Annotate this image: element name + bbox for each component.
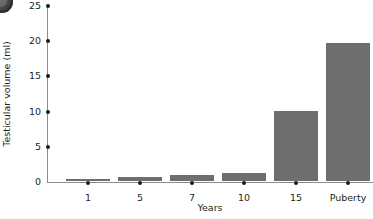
y-axis-tick-marker [46,110,50,114]
bar [274,111,318,181]
x-axis-tick-marker [242,181,246,185]
x-axis-tick-marker [294,181,298,185]
y-axis-tick-label: 10 [29,107,41,117]
plot-area: 1571015Puberty [47,6,373,182]
x-axis-title: Years [47,202,373,213]
x-axis-tick-marker [86,181,90,185]
x-axis-line [47,182,373,183]
x-axis-tick-marker [346,181,350,185]
x-axis-tick-marker [138,181,142,185]
chart-figure: 0510152025 Testicular volume (ml) 157101… [0,0,373,219]
y-axis-tick-label: 15 [29,71,41,81]
y-axis-line [47,6,48,182]
y-axis-tick-label: 5 [35,142,41,152]
y-axis-tick-marker [46,74,50,78]
bar [222,173,266,181]
bar [326,43,370,181]
y-axis-tick-marker [46,145,50,149]
y-axis-tick-marker [46,4,50,8]
y-axis-tick-label: 20 [29,36,41,46]
y-axis-title: Testicular volume (ml) [0,6,14,182]
y-axis-tick-label: 25 [29,1,41,11]
y-axis-tick-label: 0 [35,177,41,187]
y-axis-tick-marker [46,39,50,43]
x-axis-tick-marker [190,181,194,185]
